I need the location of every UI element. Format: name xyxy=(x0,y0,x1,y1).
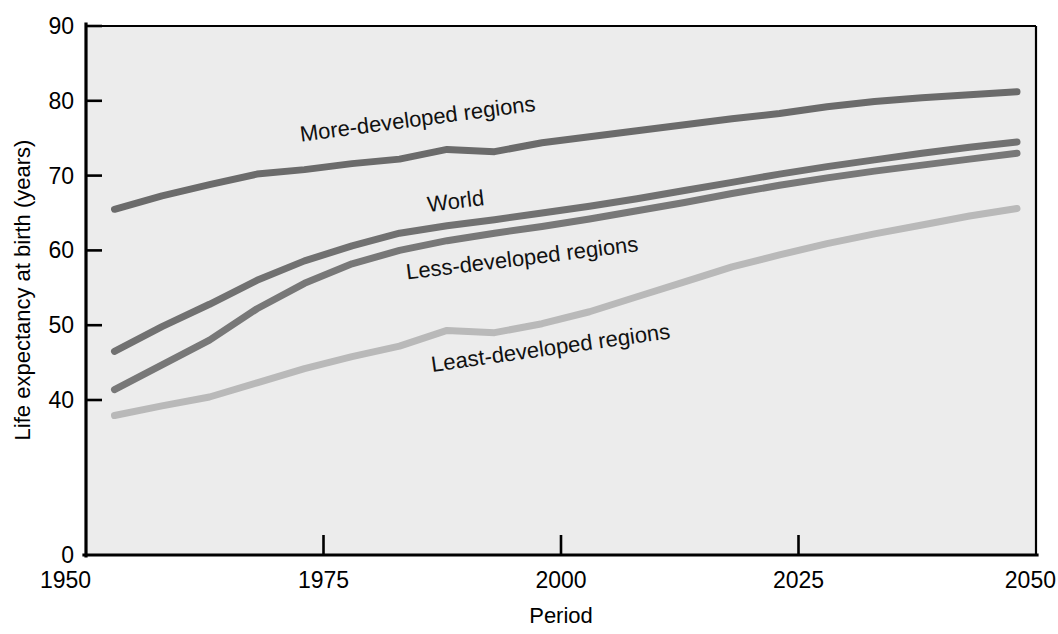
x-tick-label-1975: 1975 xyxy=(298,567,349,593)
y-tick-label-80: 80 xyxy=(48,88,74,114)
x-axis-tick-labels: 19501975200020252050 xyxy=(40,567,1056,593)
plot-area-background xyxy=(86,26,1036,555)
y-axis-title: Life expectancy at birth (years) xyxy=(10,140,35,441)
chart-figure: 0405060708090 19501975200020252050 More-… xyxy=(0,0,1058,634)
line-chart: 0405060708090 19501975200020252050 More-… xyxy=(0,0,1058,634)
x-tick-label-2000: 2000 xyxy=(535,567,586,593)
x-axis-title: Period xyxy=(529,603,593,628)
y-tick-label-40: 40 xyxy=(48,387,74,413)
y-tick-label-60: 60 xyxy=(48,237,74,263)
y-tick-label-50: 50 xyxy=(48,312,74,338)
x-tick-label-2025: 2025 xyxy=(773,567,824,593)
y-axis-tick-labels: 0405060708090 xyxy=(48,13,74,568)
y-tick-label-70: 70 xyxy=(48,163,74,189)
y-tick-label-0: 0 xyxy=(61,542,74,568)
x-tick-label-1950: 1950 xyxy=(40,567,91,593)
y-tick-label-90: 90 xyxy=(48,13,74,39)
x-tick-label-2050: 2050 xyxy=(1005,567,1056,593)
